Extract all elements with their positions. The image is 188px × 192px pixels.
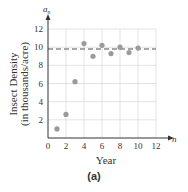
y-tick-label: 10	[34, 42, 44, 52]
y-tick-label: 12	[34, 24, 43, 34]
data-point	[90, 54, 95, 59]
y-tick-label: 2	[39, 115, 44, 125]
data-points	[54, 41, 140, 132]
data-point	[117, 45, 122, 50]
scatter-chart: 024681012 24681012 an n Year Insect Dens…	[0, 0, 188, 168]
y-axis-variable: an	[43, 4, 51, 15]
data-point	[135, 45, 140, 50]
data-point	[108, 51, 113, 56]
x-tick-labels: 024681012	[46, 141, 161, 151]
data-point	[126, 50, 131, 55]
y-axis-title: Insect Density (in thousands/acre)	[7, 42, 31, 126]
axes	[46, 14, 175, 141]
data-point	[54, 126, 59, 131]
x-tick-label: 8	[118, 141, 123, 151]
y-tick-label: 8	[39, 60, 44, 70]
x-axis-variable: n	[172, 134, 177, 144]
x-axis-title: Year	[96, 154, 117, 166]
y-tick-label: 6	[39, 79, 44, 89]
x-tick-label: 0	[46, 141, 51, 151]
x-tick-label: 6	[100, 141, 105, 151]
x-tick-label: 4	[82, 141, 87, 151]
data-point	[99, 43, 104, 48]
svg-text:(in thousands/acre): (in thousands/acre)	[18, 42, 31, 126]
data-point	[63, 112, 68, 117]
data-point	[81, 41, 86, 46]
x-tick-label: 12	[152, 141, 161, 151]
y-tick-labels: 24681012	[34, 24, 44, 125]
figure-caption: (a)	[0, 170, 188, 182]
y-tick-label: 4	[39, 97, 44, 107]
x-tick-label: 2	[64, 141, 69, 151]
data-point	[72, 79, 77, 84]
x-tick-label: 10	[134, 141, 144, 151]
